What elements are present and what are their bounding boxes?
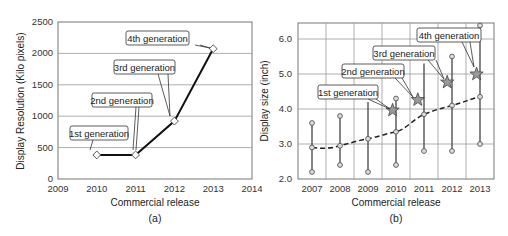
- svg-text:2nd generation: 2nd generation: [341, 66, 404, 77]
- y-tick: 3.0: [279, 138, 292, 149]
- y-tick: 1500: [32, 79, 53, 90]
- x-tick: 2011: [414, 183, 434, 194]
- svg-text:4th generation: 4th generation: [127, 33, 188, 44]
- x-tick: 2014: [241, 183, 262, 194]
- plot-b-y-ticks: 2.0 3.0 4.0 5.0 6.0: [279, 33, 292, 184]
- callout-1st-a: 1st generation: [69, 126, 129, 150]
- panel-caption: (b): [390, 212, 403, 224]
- y-tick: 500: [37, 142, 53, 153]
- diamond-marker: [93, 151, 101, 159]
- figure: 0 500 1000 1500 2000 2500 2009 2010 2011…: [0, 0, 508, 236]
- x-axis-label: Commercial release: [352, 197, 441, 208]
- x-tick: 2012: [164, 183, 185, 194]
- plot-a-x-ticks: 2009 2010 2011 2012 2013 2014: [47, 183, 262, 194]
- x-tick: 2008: [329, 183, 350, 194]
- star-icon: [470, 67, 483, 80]
- callout-4th-a: 4th generation: [126, 31, 210, 48]
- diamond-marker: [209, 45, 217, 53]
- panel-b: 2.0 3.0 4.0 5.0 6.0 2007 2008 2009 2010 …: [259, 23, 494, 224]
- callout-2nd-a: 2nd generation: [90, 93, 153, 150]
- x-tick: 2013: [469, 183, 490, 194]
- svg-text:2nd generation: 2nd generation: [90, 95, 153, 106]
- x-axis-label: Commercial release: [111, 197, 200, 208]
- y-tick: 6.0: [279, 33, 292, 44]
- plot-a-frame: [58, 22, 252, 179]
- y-tick: 4.0: [279, 103, 292, 114]
- svg-text:4th generation: 4th generation: [419, 30, 480, 41]
- x-tick: 2010: [86, 183, 107, 194]
- y-axis-label: Display Resolution (Kilo pixels): [15, 32, 26, 169]
- svg-text:3rd generation: 3rd generation: [114, 62, 175, 73]
- x-tick: 2010: [385, 183, 406, 194]
- x-tick: 2013: [203, 183, 224, 194]
- x-tick: 2009: [47, 183, 68, 194]
- x-tick: 2007: [301, 183, 322, 194]
- plot-a-y-ticks: 0 500 1000 1500 2000 2500: [32, 16, 53, 184]
- panel-a: 0 500 1000 1500 2000 2500 2009 2010 2011…: [15, 16, 263, 224]
- y-axis-label: Display size (inch): [259, 60, 270, 141]
- svg-text:1st generation: 1st generation: [69, 128, 129, 139]
- y-tick: 5.0: [279, 68, 292, 79]
- x-tick: 2011: [125, 183, 145, 194]
- plot-b-x-ticks: 2007 2008 2009 2010 2011 2012 2013: [301, 183, 490, 194]
- callout-3rd-a: 3rd generation: [114, 60, 175, 116]
- y-tick: 2000: [32, 47, 53, 58]
- svg-text:1st generation: 1st generation: [318, 87, 378, 98]
- panel-caption: (a): [149, 212, 162, 224]
- y-tick: 2.0: [279, 173, 292, 184]
- x-tick: 2009: [357, 183, 378, 194]
- star-icon: [411, 93, 424, 106]
- x-tick: 2012: [441, 183, 462, 194]
- svg-text:3rd generation: 3rd generation: [373, 48, 434, 59]
- y-tick: 2500: [32, 16, 53, 27]
- star-icon: [386, 103, 399, 116]
- y-tick: 1000: [32, 110, 53, 121]
